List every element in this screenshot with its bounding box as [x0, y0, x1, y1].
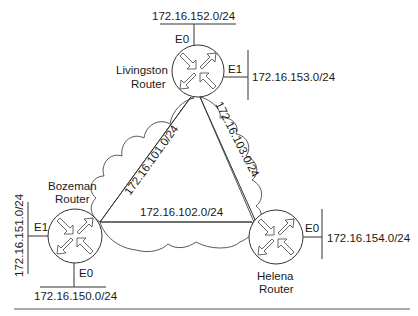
lan-livingston-e1: 172.16.153.0/24 E1: [224, 50, 336, 100]
router-name-livingston-line2: Router: [131, 78, 166, 90]
router-name-livingston: Livingston: [116, 64, 168, 76]
network-label-154: 172.16.154.0/24: [327, 232, 411, 244]
network-label-150: 172.16.150.0/24: [34, 290, 118, 302]
interface-label-livingston-e1: E1: [228, 63, 242, 75]
interface-label-bozeman-e1: E1: [34, 221, 48, 233]
router-icon: [48, 209, 102, 263]
network-label-153: 172.16.153.0/24: [252, 71, 336, 83]
lan-bozeman-e0: 172.16.150.0/24 E0: [34, 263, 118, 302]
lan-livingston-e0: 172.16.152.0/24 E0: [152, 10, 236, 45]
network-label-152: 172.16.152.0/24: [152, 10, 236, 22]
router-name-bozeman-line2: Router: [55, 193, 90, 205]
router-icon: [249, 210, 303, 264]
interface-label-livingston-e0: E0: [175, 33, 189, 45]
wan-link-label-102: 172.16.102.0/24: [140, 206, 224, 218]
network-topology-diagram: 172.16.101.0/24 172.16.102.0/24 172.16.1…: [0, 0, 418, 316]
lan-helena-e0: 172.16.154.0/24 E0: [303, 209, 411, 259]
router-livingston[interactable]: Livingston Router: [116, 45, 224, 97]
router-name-helena: Helena: [257, 270, 294, 282]
wan-cloud-left: [91, 98, 194, 222]
interface-label-helena-e0: E0: [305, 222, 319, 234]
lan-bozeman-e1: 172.16.151.0/24 E1: [13, 193, 48, 277]
interface-label-bozeman-e0: E0: [79, 267, 93, 279]
router-name-bozeman: Bozeman: [48, 180, 97, 192]
router-helena[interactable]: Helena Router: [249, 210, 303, 295]
network-label-151: 172.16.151.0/24: [13, 193, 25, 277]
wan-cloud-bottom: [100, 222, 253, 252]
router-name-helena-line2: Router: [259, 283, 294, 295]
